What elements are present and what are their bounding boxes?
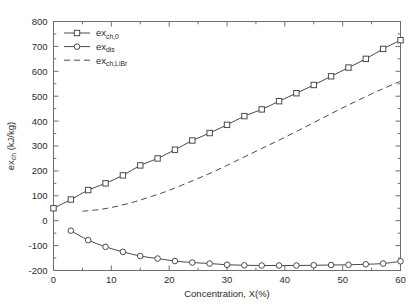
data-point-marker	[363, 56, 368, 61]
x-tick-label: 60	[395, 274, 406, 285]
data-point-marker	[190, 260, 196, 266]
data-point-marker	[86, 187, 91, 192]
x-tick-label: 0	[51, 274, 56, 285]
y-axis-title-text: exch (kJ/kg)	[5, 122, 17, 170]
y-tick-label: 400	[32, 116, 48, 127]
data-point-marker	[380, 46, 385, 51]
data-point-marker	[68, 197, 73, 202]
data-point-marker	[380, 261, 386, 267]
data-point-marker	[259, 263, 265, 269]
data-point-marker	[190, 138, 195, 143]
data-point-marker	[363, 261, 369, 267]
figure-background	[0, 0, 415, 304]
x-axis-title: Concentration, X(%)	[184, 288, 270, 299]
data-point-marker	[276, 263, 282, 269]
data-point-marker	[155, 156, 160, 161]
data-point-marker	[346, 262, 352, 268]
y-tick-label: 700	[32, 41, 48, 52]
legend-marker-circle	[74, 44, 80, 50]
x-tick-label: 10	[106, 274, 117, 285]
x-tick-label: 20	[164, 274, 175, 285]
data-point-marker	[346, 65, 351, 70]
data-point-marker	[294, 91, 299, 96]
data-point-marker	[207, 130, 212, 135]
y-tick-label: 300	[32, 140, 48, 151]
data-point-marker	[103, 244, 109, 250]
data-point-marker	[276, 98, 281, 103]
data-point-marker	[137, 253, 143, 259]
data-point-marker	[294, 263, 300, 269]
data-point-marker	[328, 74, 333, 79]
chart-figure: -200-1000100200300400500600700800 010203…	[0, 0, 415, 304]
legend-marker-square	[74, 30, 79, 35]
y-tick-label: -100	[28, 240, 47, 251]
data-point-marker	[85, 237, 91, 243]
x-tick-label: 40	[280, 274, 291, 285]
y-tick-label: 500	[32, 91, 48, 102]
x-tick-label: 50	[337, 274, 348, 285]
chart-canvas: -200-1000100200300400500600700800 010203…	[0, 0, 415, 304]
y-tick-label: 100	[32, 190, 48, 201]
data-point-marker	[51, 206, 56, 211]
data-point-marker	[311, 262, 317, 268]
data-point-marker	[398, 37, 403, 42]
data-point-marker	[172, 258, 178, 264]
y-axis-title: exch (kJ/kg)	[5, 122, 17, 170]
data-point-marker	[172, 147, 177, 152]
data-point-marker	[398, 258, 404, 264]
data-point-marker	[155, 256, 161, 262]
y-tick-label: 200	[32, 165, 48, 176]
data-point-marker	[224, 262, 230, 268]
data-point-marker	[120, 173, 125, 178]
y-tick-label: 0	[42, 215, 47, 226]
data-point-marker	[207, 261, 213, 267]
data-point-marker	[259, 107, 264, 112]
y-tick-label: -200	[28, 265, 47, 276]
data-point-marker	[328, 262, 334, 268]
data-point-marker	[311, 82, 316, 87]
x-axis-title-text: Concentration, X(%)	[184, 288, 270, 299]
y-tick-label: 800	[32, 16, 48, 27]
data-point-marker	[103, 181, 108, 186]
data-point-marker	[242, 113, 247, 118]
x-tick-label: 30	[222, 274, 233, 285]
y-tick-label: 600	[32, 66, 48, 77]
data-point-marker	[120, 249, 126, 255]
data-point-marker	[138, 163, 143, 168]
data-point-marker	[224, 122, 229, 127]
data-point-marker	[68, 228, 74, 234]
data-point-marker	[242, 262, 248, 268]
